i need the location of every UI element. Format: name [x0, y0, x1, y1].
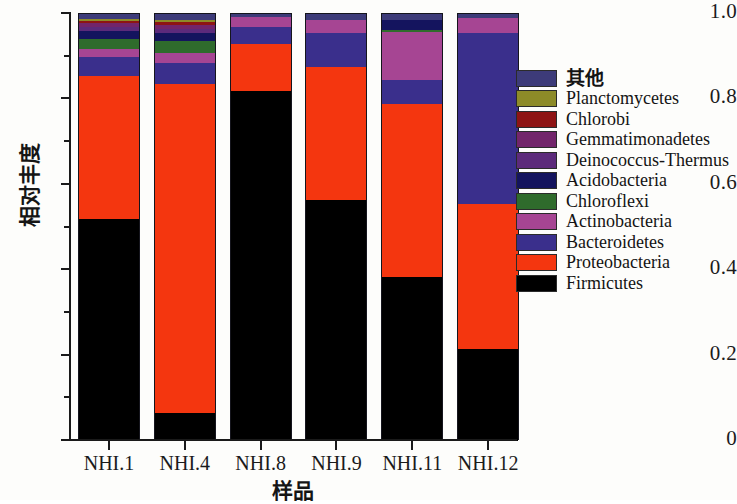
legend-label: Planctomycetes	[566, 89, 679, 108]
legend-item-chlorobi[interactable]: Chlorobi	[516, 109, 734, 130]
bar-segment-acidobacteria[interactable]	[382, 20, 442, 30]
y-tick-major	[61, 183, 70, 185]
bar-segment-gemmatimonadetes[interactable]	[155, 25, 215, 29]
bar-segment-firmicutes[interactable]	[155, 413, 215, 441]
y-axis-title: 相对丰度	[13, 125, 43, 245]
legend-item-actinobacteria[interactable]: Actinobacteria	[516, 212, 734, 233]
legend-label: Acidobacteria	[566, 171, 667, 190]
bar-segment-proteobacteria[interactable]	[382, 104, 442, 277]
bar-segment-actinobacteria[interactable]	[382, 32, 442, 80]
legend-swatch	[516, 234, 557, 251]
legend-item-gemmatimonadetes[interactable]: Gemmatimonadetes	[516, 130, 734, 151]
bar-segment-acidobacteria[interactable]	[79, 31, 139, 39]
bar-segment-actinobacteria[interactable]	[231, 17, 291, 26]
y-tick-major	[61, 439, 70, 441]
legend-item-acidobacteria[interactable]: Acidobacteria	[516, 171, 734, 192]
legend-swatch	[516, 131, 557, 148]
bar-nhi-1[interactable]	[78, 13, 140, 440]
legend-swatch	[516, 152, 557, 169]
bar-segment-actinobacteria[interactable]	[79, 49, 139, 56]
bar-segment-chloroflexi[interactable]	[382, 30, 442, 33]
bar-nhi-11[interactable]	[381, 13, 443, 440]
legend-item-chloroflexi[interactable]: Chloroflexi	[516, 191, 734, 212]
bar-segment-chlorobi[interactable]	[155, 22, 215, 25]
legend: 其他PlanctomycetesChlorobiGemmatimonadetes…	[516, 68, 734, 294]
y-tick-minor	[64, 140, 70, 142]
legend-item-deinococcus-thermus[interactable]: Deinococcus-Thermus	[516, 150, 734, 171]
bar-segment-proteobacteria[interactable]	[231, 44, 291, 91]
legend-item-firmicutes[interactable]: Firmicutes	[516, 273, 734, 294]
bar-segment-firmicutes[interactable]	[79, 219, 139, 441]
bar-segment-deinococcus-thermus[interactable]	[79, 27, 139, 31]
bar-segment-gemmatimonadetes[interactable]	[79, 23, 139, 26]
bar-segment-[interactable]	[79, 14, 139, 19]
bar-segment-proteobacteria[interactable]	[79, 76, 139, 219]
bar-segment-actinobacteria[interactable]	[306, 20, 366, 33]
x-tick-label: NHI.4	[160, 452, 211, 475]
bar-segment-proteobacteria[interactable]	[458, 204, 518, 349]
bar-segment-deinococcus-thermus[interactable]	[155, 29, 215, 32]
legend-label: 其他	[566, 69, 604, 88]
x-tick-label: NHI.9	[311, 452, 362, 475]
bar-segment-bacteroidetes[interactable]	[382, 80, 442, 103]
bar-segment-actinobacteria[interactable]	[155, 53, 215, 63]
legend-swatch	[516, 193, 557, 210]
x-tick	[411, 441, 413, 450]
x-tick	[487, 441, 489, 450]
x-tick	[335, 441, 337, 450]
y-tick-label: 0	[693, 426, 737, 451]
bar-segment-[interactable]	[155, 14, 215, 20]
legend-swatch	[516, 172, 557, 189]
bar-segment-bacteroidetes[interactable]	[306, 33, 366, 67]
y-tick-major	[61, 268, 70, 270]
bar-segment-firmicutes[interactable]	[306, 200, 366, 441]
legend-label: Bacteroidetes	[566, 233, 664, 252]
bar-segment-planctomycetes[interactable]	[155, 20, 215, 23]
bar-segment-bacteroidetes[interactable]	[79, 57, 139, 76]
legend-label: Deinococcus-Thermus	[566, 151, 729, 170]
bar-segment-[interactable]	[306, 14, 366, 20]
bar-nhi-12[interactable]	[457, 13, 519, 440]
legend-swatch	[516, 254, 557, 271]
bar-segment-bacteroidetes[interactable]	[231, 27, 291, 44]
x-tick-label: NHI.8	[235, 452, 286, 475]
bar-segment-proteobacteria[interactable]	[306, 67, 366, 199]
legend-item-proteobacteria[interactable]: Proteobacteria	[516, 253, 734, 274]
y-tick-minor	[64, 226, 70, 228]
x-tick	[184, 441, 186, 450]
bar-segment-acidobacteria[interactable]	[155, 33, 215, 42]
bar-segment-[interactable]	[458, 14, 518, 18]
plot-area	[70, 13, 515, 440]
bar-segment-planctomycetes[interactable]	[79, 19, 139, 21]
y-tick-label: 0.2	[693, 341, 737, 366]
bar-segment-actinobacteria[interactable]	[458, 18, 518, 33]
legend-item-bacteroidetes[interactable]: Bacteroidetes	[516, 232, 734, 253]
legend-swatch	[516, 275, 557, 292]
bar-segment-chloroflexi[interactable]	[155, 41, 215, 53]
x-tick-label: NHI.1	[84, 452, 135, 475]
legend-item-planctomycetes[interactable]: Planctomycetes	[516, 89, 734, 110]
bar-segment-bacteroidetes[interactable]	[458, 33, 518, 204]
y-tick-major	[61, 97, 70, 99]
y-tick-minor	[64, 55, 70, 57]
bar-nhi-9[interactable]	[305, 13, 367, 440]
bar-segment-bacteroidetes[interactable]	[155, 63, 215, 84]
bar-segment-firmicutes[interactable]	[382, 277, 442, 441]
legend-item-other[interactable]: 其他	[516, 68, 734, 89]
bar-segment-firmicutes[interactable]	[458, 349, 518, 441]
bar-nhi-8[interactable]	[230, 13, 292, 440]
legend-swatch	[516, 213, 557, 230]
legend-label: Gemmatimonadetes	[566, 130, 710, 149]
bar-segment-chloroflexi[interactable]	[79, 39, 139, 50]
x-tick	[260, 441, 262, 450]
y-tick-minor	[64, 396, 70, 398]
bar-segment-[interactable]	[231, 14, 291, 17]
bar-segment-[interactable]	[382, 14, 442, 20]
y-tick-major	[61, 12, 70, 14]
bar-segment-chlorobi[interactable]	[79, 21, 139, 24]
bar-nhi-4[interactable]	[154, 13, 216, 440]
legend-swatch	[516, 70, 557, 87]
bar-segment-proteobacteria[interactable]	[155, 84, 215, 413]
bar-segment-firmicutes[interactable]	[231, 91, 291, 441]
legend-label: Chlorobi	[566, 110, 630, 129]
